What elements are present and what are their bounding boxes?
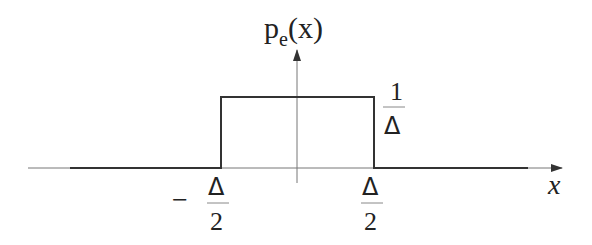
- right-bound-numerator: Δ: [362, 173, 379, 201]
- left-bound-sign: −: [172, 184, 188, 215]
- height-label: 1 Δ: [383, 77, 405, 140]
- left-bound-numerator: Δ: [208, 173, 225, 201]
- pdf-curve: [70, 97, 528, 168]
- right-bound-label: Δ 2: [361, 173, 383, 236]
- left-bound-label: − Δ 2: [172, 173, 229, 236]
- x-axis-label: x: [547, 169, 561, 200]
- height-label-numerator: 1: [390, 77, 403, 106]
- height-label-denominator: Δ: [384, 112, 401, 140]
- pdf-diagram: pe(x) 1 Δ − Δ 2 Δ 2 x: [0, 0, 592, 245]
- y-axis-label: pe(x): [264, 11, 323, 50]
- left-bound-denominator: 2: [210, 207, 223, 236]
- right-bound-denominator: 2: [364, 207, 377, 236]
